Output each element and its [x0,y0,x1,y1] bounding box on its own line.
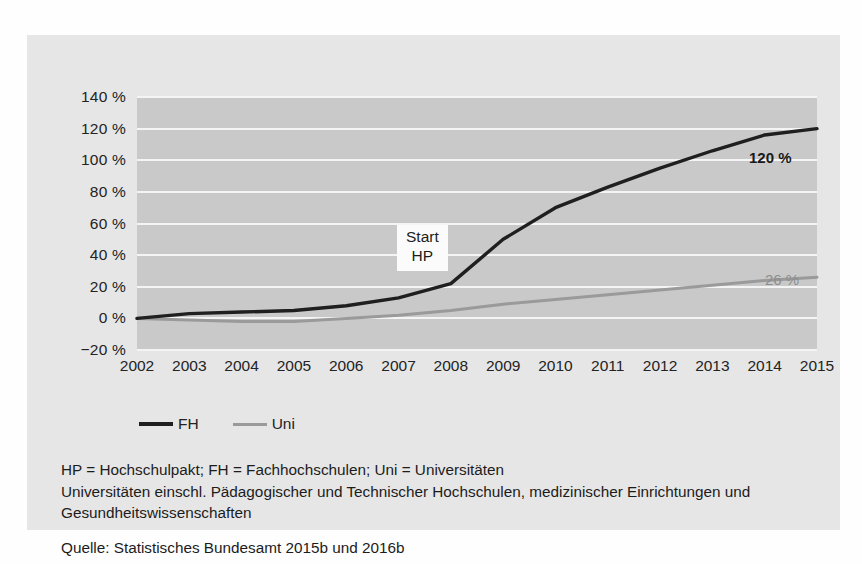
note-source: Quelle: Statistisches Bundesamt 2015b un… [61,537,851,559]
y-axis-tick-label: 0 % [99,309,126,327]
plot-area [137,97,817,350]
y-axis-tick-label: 20 % [90,278,126,296]
y-axis-tick-label: 60 % [90,215,126,233]
chart-legend: FH Uni [139,415,295,433]
legend-label-uni: Uni [272,415,295,433]
legend-swatch-fh-icon [139,422,173,426]
x-axis-labels: 2002200320042005200620072008200920102011… [137,357,817,381]
uni-end-value-label: 26 % [765,271,799,288]
chart-page: 140 %120 %100 %80 %60 %40 %20 %0 %−20 % … [0,0,862,564]
y-axis-labels: 140 %120 %100 %80 %60 %40 %20 %0 %−20 % [54,97,132,350]
legend-item-fh[interactable]: FH [139,415,199,433]
y-axis-tick-label: 100 % [81,151,126,169]
note-abbreviations: HP = Hochschulpakt; FH = Fachhochschulen… [61,459,851,481]
x-axis-tick-label: 2008 [434,357,468,375]
y-axis-tick-label: 80 % [90,183,126,201]
y-axis-tick-label: 120 % [81,120,126,138]
annotation-line-1: Start [406,228,439,247]
x-axis-tick-label: 2013 [695,357,729,375]
series-line-fh [137,129,817,319]
legend-item-uni[interactable]: Uni [233,415,295,433]
series-lines [137,97,817,350]
series-line-uni [137,277,817,321]
x-axis-tick-label: 2007 [381,357,415,375]
annotation-start-hp: Start HP [397,225,448,271]
x-axis-tick-label: 2002 [120,357,154,375]
x-axis-tick-label: 2006 [329,357,363,375]
footnotes: HP = Hochschulpakt; FH = Fachhochschulen… [61,459,851,559]
x-axis-tick-label: 2005 [277,357,311,375]
x-axis-tick-label: 2012 [643,357,677,375]
x-axis-tick-label: 2009 [486,357,520,375]
note-definition: Universitäten einschl. Pädagogischer und… [61,481,851,524]
x-axis-tick-label: 2004 [224,357,258,375]
x-axis-tick-label: 2010 [538,357,572,375]
figure-panel: 140 %120 %100 %80 %60 %40 %20 %0 %−20 % … [27,35,840,530]
x-axis-tick-label: 2003 [172,357,206,375]
x-axis-tick-label: 2011 [591,357,624,375]
annotation-line-2: HP [406,247,439,266]
y-axis-tick-label: 140 % [81,88,126,106]
x-axis-tick-label: 2015 [800,357,834,375]
y-axis-tick-label: 40 % [90,246,126,264]
legend-label-fh: FH [178,415,199,433]
x-axis-tick-label: 2014 [747,357,781,375]
fh-end-value-label: 120 % [749,149,792,166]
legend-swatch-uni-icon [233,423,267,426]
